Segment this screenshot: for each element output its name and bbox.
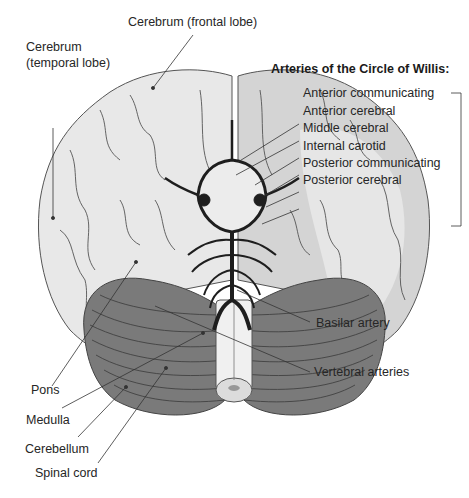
- artery-label-anterior-communicating: Anterior communicating: [303, 86, 434, 101]
- label-cerebrum-temporal-2: (temporal lobe): [26, 56, 110, 71]
- label-cerebellum: Cerebellum: [25, 442, 89, 457]
- label-vertebral-arteries: Vertebral arteries: [314, 365, 409, 380]
- label-cerebrum-frontal: Cerebrum (frontal lobe): [128, 15, 257, 30]
- artery-label-anterior-cerebral: Anterior cerebral: [303, 104, 395, 119]
- label-basilar-artery: Basilar artery: [316, 316, 390, 331]
- artery-label-internal-carotid: Internal carotid: [303, 139, 386, 154]
- label-pons: Pons: [31, 383, 60, 398]
- artery-label-middle-cerebral: Middle cerebral: [303, 121, 388, 136]
- label-medulla: Medulla: [26, 413, 70, 428]
- artery-label-posterior-communicating: Posterior communicating: [303, 156, 441, 171]
- artery-label-posterior-cerebral: Posterior cerebral: [303, 173, 402, 188]
- arteries-title: Arteries of the Circle of Willis:: [271, 62, 449, 76]
- label-spinal-cord: Spinal cord: [35, 466, 98, 481]
- label-cerebrum-temporal-1: Cerebrum: [26, 40, 82, 55]
